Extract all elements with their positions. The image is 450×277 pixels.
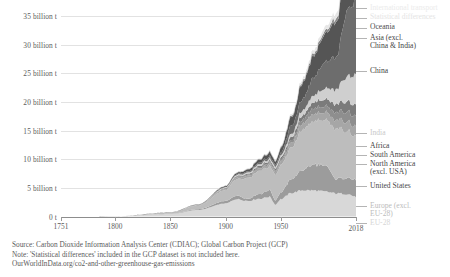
legend-item-united-states[interactable]: United States — [370, 182, 411, 191]
x-tick-1751 — [61, 217, 62, 221]
legend-item-india[interactable]: India — [370, 129, 386, 138]
x-tick-label-1850: 1850 — [154, 222, 186, 231]
footer-source: Source: Carbon Dioxide Information Analy… — [12, 240, 442, 250]
x-tick-1900 — [226, 217, 227, 221]
legend-label-india: India — [370, 129, 386, 138]
legend-item-africa[interactable]: Africa — [370, 142, 389, 151]
footer-url[interactable]: OurWorldInData.org/co2-and-other-greenho… — [12, 259, 442, 269]
legend-label-statistical-differences: Statistical differences — [370, 13, 435, 22]
legend-item-eu28[interactable]: EU-28 — [370, 219, 390, 228]
x-tick-1950 — [281, 217, 282, 221]
legend-rule-south-america — [356, 155, 367, 156]
legend-rule-china — [356, 71, 367, 72]
x-tick-label-1900: 1900 — [210, 222, 242, 231]
legend-rule-statistical-differences — [356, 18, 367, 19]
legend-label-oceania: Oceania — [370, 23, 395, 32]
legend-label-africa: Africa — [370, 142, 389, 151]
x-tick-label-1800: 1800 — [99, 222, 131, 231]
legend-item-south-america[interactable]: South America — [370, 151, 415, 160]
legend-item-statistical-differences[interactable]: Statistical differences — [370, 13, 435, 22]
legend-label-united-states: United States — [370, 182, 411, 191]
legend-rule-eu28 — [356, 223, 367, 224]
legend-rule-africa — [356, 146, 367, 147]
legend-rule-europe — [356, 206, 367, 207]
chart-page: 35 billion t 30 billion t 25 billion t 2… — [0, 0, 450, 277]
legend-label-south-america: South America — [370, 151, 415, 160]
legend-rule-asia — [356, 38, 367, 39]
plot-area: 35 billion t 30 billion t 25 billion t 2… — [0, 0, 450, 232]
legend-item-china[interactable]: China — [370, 67, 388, 76]
footer-note: Note: 'Statistical differences' included… — [12, 250, 442, 260]
legend-label-eu28: EU-28 — [370, 219, 390, 228]
legend-label-china: China — [370, 67, 388, 76]
legend-rule-international-transport — [356, 8, 367, 9]
x-axis-line — [61, 217, 356, 218]
legend-rule-oceania — [356, 28, 367, 29]
x-tick-1850 — [170, 217, 171, 221]
legend-item-north-america[interactable]: North America (excl. USA) — [370, 160, 415, 177]
legend-label-international-transport: International transport — [370, 4, 438, 13]
legend-rule-united-states — [356, 186, 367, 187]
chart-legend: International transport Statistical diff… — [356, 0, 450, 232]
legend-label-north-america-line2: (excl. USA) — [370, 168, 415, 177]
legend-item-asia[interactable]: Asia (excl. China & India) — [370, 34, 416, 51]
legend-rule-north-america — [356, 164, 367, 165]
legend-rule-india — [356, 133, 367, 134]
legend-item-europe[interactable]: Europe (excl. EU-28) — [370, 202, 411, 219]
legend-label-asia-line2: China & India) — [370, 42, 416, 51]
x-tick-label-1950: 1950 — [265, 222, 297, 231]
x-tick-label-1751: 1751 — [45, 222, 77, 231]
x-tick-1800 — [115, 217, 116, 221]
legend-item-oceania[interactable]: Oceania — [370, 23, 395, 32]
chart-footer: Source: Carbon Dioxide Information Analy… — [12, 240, 442, 269]
legend-item-international-transport[interactable]: International transport — [370, 4, 438, 13]
